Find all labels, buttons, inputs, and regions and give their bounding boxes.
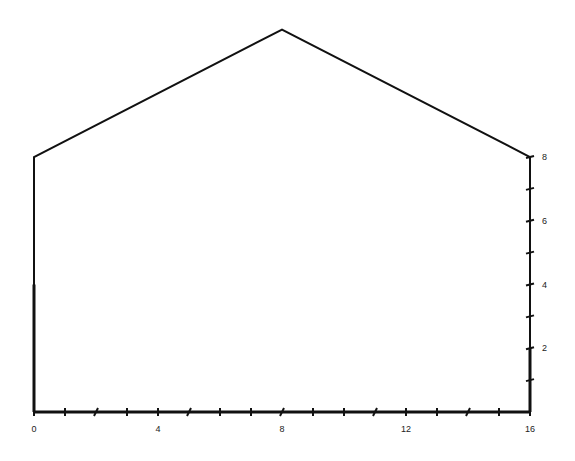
y-label: 6 <box>542 216 547 226</box>
y-label: 2 <box>542 343 547 353</box>
y-tick <box>526 379 534 381</box>
x-label: 4 <box>155 424 160 434</box>
house-outline <box>34 30 530 413</box>
x-label: 16 <box>525 424 535 434</box>
house-diagram <box>0 0 575 461</box>
y-tick <box>526 315 534 317</box>
y-tick <box>526 347 534 349</box>
x-label: 0 <box>31 424 36 434</box>
x-label: 12 <box>401 424 411 434</box>
y-tick <box>526 220 534 222</box>
x-label: 8 <box>279 424 284 434</box>
y-tick <box>526 284 534 286</box>
y-label: 8 <box>542 152 547 162</box>
y-tick <box>526 252 534 254</box>
y-tick <box>526 188 534 190</box>
y-label: 4 <box>542 280 547 290</box>
